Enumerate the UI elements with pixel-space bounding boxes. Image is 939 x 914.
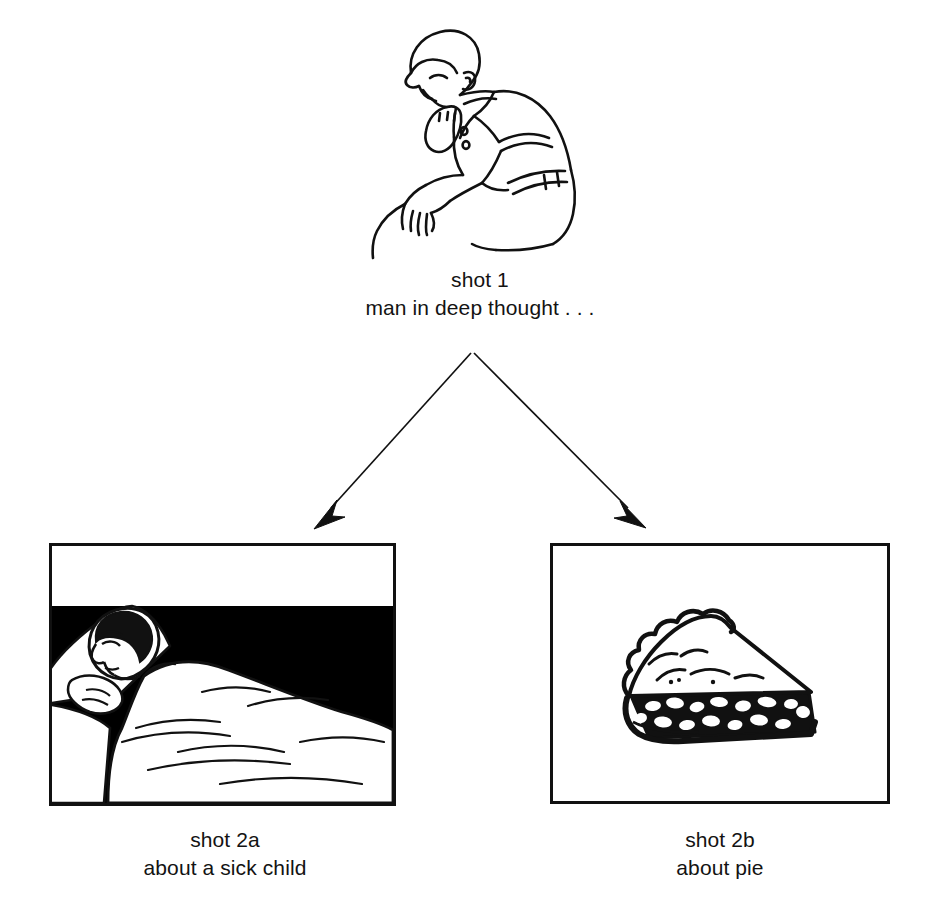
shot2b-illustration-pie (550, 543, 890, 804)
pie-slice-drawing (553, 546, 887, 801)
shot2a-description: about a sick child (25, 854, 425, 882)
arrow-to-shot2a (314, 353, 471, 529)
shot1-caption: shot 1 man in deep thought . . . (280, 266, 680, 321)
shot2b-description: about pie (520, 854, 920, 882)
shot2b-label: shot 2b (520, 826, 920, 854)
branch-connectors (290, 340, 660, 540)
shot2b-caption: shot 2b about pie (520, 826, 920, 881)
shot2a-label: shot 2a (25, 826, 425, 854)
thinking-man-drawing (368, 18, 584, 266)
shot1-illustration-thinking-man (368, 18, 584, 266)
connector-arrows-svg (290, 340, 660, 540)
shot2a-illustration-sick-child (49, 543, 396, 806)
arrow-to-shot2b (474, 353, 646, 528)
storyboard-page: shot 1 man in deep thought . . . (0, 0, 939, 914)
shot2a-caption: shot 2a about a sick child (25, 826, 425, 881)
shot1-label: shot 1 (280, 266, 680, 294)
sick-child-drawing (52, 546, 393, 803)
shot1-description: man in deep thought . . . (280, 294, 680, 322)
